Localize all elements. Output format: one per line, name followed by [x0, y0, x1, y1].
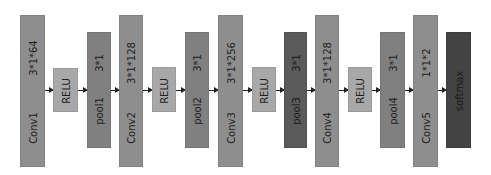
arrow-pool1-conv2 [111, 90, 119, 91]
relu1-name: RELU [60, 78, 71, 104]
arrow-pool3-conv4 [307, 90, 315, 91]
relu1-block: RELU [53, 68, 78, 112]
arrow-relu3-pool3 [276, 90, 284, 91]
conv3-name: Conv3 [225, 112, 236, 144]
arrow-conv4-relu4 [339, 90, 348, 91]
conv4-block: 3*1*128 Conv4 [315, 15, 339, 167]
relu3-name: RELU [259, 78, 270, 104]
relu2-block: RELU [152, 67, 176, 112]
pool4-name: pool4 [387, 97, 398, 125]
conv3-param: 3*1*256 [225, 42, 236, 84]
conv2-param: 3*1*128 [126, 42, 137, 84]
softmax-block: softmax [446, 32, 471, 148]
conv3-block: 3*1*256 Conv3 [218, 15, 243, 167]
relu4-name: RELU [355, 78, 366, 104]
conv4-name: Conv4 [322, 112, 333, 144]
pool4-block: 3*1 pool4 [380, 32, 405, 148]
conv2-block: 3*1*128 Conv2 [119, 15, 143, 167]
relu3-block: RELU [252, 67, 276, 112]
arrow-relu2-pool2 [176, 90, 185, 91]
arrow-conv3-relu3 [243, 90, 252, 91]
softmax-name: softmax [453, 71, 464, 111]
conv5-name: Conv5 [420, 112, 431, 144]
conv2-name: Conv2 [126, 112, 137, 144]
pool2-block: 3*1 pool2 [185, 32, 209, 148]
conv4-param: 3*1*128 [322, 42, 333, 84]
arrow-conv5-softmax [438, 90, 446, 91]
pool3-name: pool3 [290, 97, 301, 125]
pool2-param: 3*1 [192, 54, 203, 72]
pool2-name: pool2 [192, 97, 203, 125]
relu4-block: RELU [348, 67, 372, 112]
conv1-param: 3*1*64 [27, 40, 38, 75]
pool4-param: 3*1 [387, 54, 398, 72]
relu2-name: RELU [159, 78, 170, 104]
arrow-relu1-pool1 [78, 90, 87, 91]
pool1-param: 3*1 [94, 54, 105, 72]
arrow-conv1-relu1 [45, 90, 53, 91]
conv1-name: Conv1 [27, 112, 38, 144]
pool3-param: 3*1 [290, 54, 301, 72]
arrow-pool4-conv5 [405, 90, 413, 91]
pool1-name: pool1 [94, 97, 105, 125]
conv5-param: 1*1*2 [420, 48, 431, 77]
arrow-conv2-relu2 [143, 90, 152, 91]
pool1-block: 3*1 pool1 [87, 32, 111, 148]
arrow-relu4-pool4 [372, 90, 380, 91]
pool3-block: 3*1 pool3 [284, 32, 307, 148]
conv1-block: 3*1*64 Conv1 [20, 15, 45, 167]
arrow-pool2-conv3 [209, 90, 218, 91]
conv5-block: 1*1*2 Conv5 [413, 15, 438, 167]
